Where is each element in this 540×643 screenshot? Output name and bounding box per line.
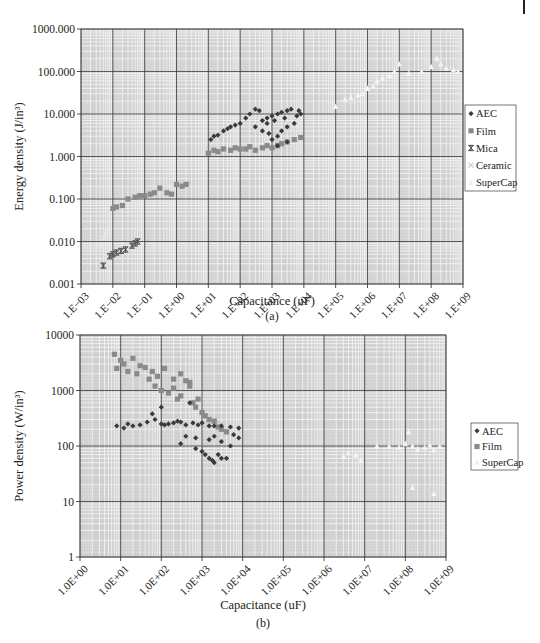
- x-axis-title: Capacitance (uF): [229, 294, 315, 308]
- x-tick-label: 1.E+00: [155, 289, 187, 321]
- x-tick-label: 1.0E+07: [340, 562, 375, 597]
- svg-text:AEC: AEC: [476, 108, 497, 119]
- svg-text:Film: Film: [476, 126, 496, 137]
- chart-canvas: 0.0010.0100.1001.00010.000100.0001000.00…: [0, 0, 540, 643]
- x-tick-label: 1.0E+00: [55, 562, 90, 597]
- x-tick-label: 1.E+08: [410, 289, 442, 321]
- x-tick-label: 1.E−01: [123, 290, 154, 321]
- x-tick-label: 1.0E+09: [421, 562, 456, 597]
- legend: AECFilmSuperCap: [471, 423, 523, 470]
- y-tick-label: 10000: [45, 329, 74, 341]
- y-tick-label: 1000.000: [32, 23, 75, 35]
- x-tick-label: 1.E+05: [314, 289, 346, 321]
- x-tick-label: 1.E+01: [187, 290, 218, 321]
- x-tick-label: 1.E−03: [60, 289, 92, 321]
- y-tick-label: 10: [63, 496, 75, 508]
- x-tick-label: 1.E−02: [92, 290, 123, 321]
- y-tick-label: 100.000: [38, 66, 76, 78]
- y-tick-label: 0.001: [49, 278, 75, 290]
- x-axis: 1.0E+001.0E+011.0E+021.0E+031.0E+041.0E+…: [55, 557, 456, 598]
- y-tick-label: 1.000: [49, 151, 75, 163]
- svg-text:Ceramic: Ceramic: [476, 160, 512, 171]
- chart-a-energy-density: 0.0010.0100.1001.00010.000100.0001000.00…: [12, 23, 517, 323]
- y-axis-title: Power density (W/in³): [12, 390, 26, 501]
- chart-b-power-density: 1101001000100001.0E+001.0E+011.0E+021.0E…: [12, 329, 523, 630]
- legend: AECFilmMicaCeramicSuperCap: [465, 105, 517, 191]
- y-tick-label: 1: [68, 551, 74, 563]
- x-tick-label: 1.0E+02: [136, 563, 171, 598]
- x-tick-label: 1.0E+03: [177, 562, 212, 597]
- x-tick-label: 1.0E+08: [380, 562, 415, 597]
- figure-caption: (a): [265, 309, 278, 323]
- x-tick-label: 1.0E+06: [299, 562, 334, 597]
- figure-caption: (b): [256, 616, 270, 630]
- y-tick-label: 10.000: [43, 108, 75, 120]
- svg-text:SuperCap: SuperCap: [476, 177, 517, 188]
- y-tick-label: 100: [57, 440, 75, 452]
- x-tick-label: 1.E+06: [346, 289, 378, 321]
- y-axis-title: Energy density (J/in³): [12, 102, 26, 210]
- y-tick-label: 0.100: [49, 193, 75, 205]
- x-tick-label: 1.0E+04: [218, 562, 253, 597]
- y-tick-label: 0.010: [49, 236, 75, 248]
- x-axis-title: Capacitance (uF): [220, 598, 306, 612]
- legend-item-supercap: SuperCap: [474, 457, 523, 468]
- x-tick-label: 1.E+07: [378, 289, 410, 321]
- y-axis: 110100100010000: [45, 329, 80, 563]
- x-tick-label: 1.E+09: [442, 289, 474, 321]
- y-tick-label: 1000: [51, 385, 74, 397]
- y-axis: 0.0010.0100.1001.00010.000100.0001000.00…: [32, 23, 81, 290]
- svg-text:Mica: Mica: [476, 143, 498, 154]
- x-tick-label: 1.0E+01: [96, 563, 131, 598]
- svg-text:Film: Film: [482, 441, 502, 452]
- legend-item-supercap: SuperCap: [468, 177, 517, 188]
- svg-text:AEC: AEC: [482, 426, 503, 437]
- svg-text:SuperCap: SuperCap: [482, 457, 523, 468]
- x-tick-label: 1.0E+05: [258, 562, 293, 597]
